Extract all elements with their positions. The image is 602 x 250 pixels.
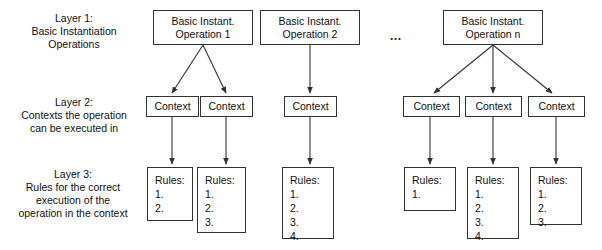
context-box-2[interactable]: Context (200, 96, 253, 117)
rules-1-item-1: 1. (155, 187, 164, 201)
edge-op1-to-ctx2 (203, 45, 226, 93)
diagram-canvas: Layer 1: Basic Instantiation Operations … (0, 0, 602, 250)
rules-5-item-1: 1. (475, 187, 484, 201)
rules-box-3[interactable]: Rules: 1. 2. 3. 4. (282, 167, 334, 239)
context-6-label: Context (538, 100, 574, 113)
rules-6-item-2: 2. (538, 201, 547, 215)
rules-3-item-4: 4. (290, 229, 299, 243)
operation-box-n[interactable]: Basic Instant. Operation n (443, 10, 543, 45)
rules-3-item-2: 2. (290, 201, 299, 215)
rules-6-title: Rules: (538, 173, 568, 187)
context-box-4[interactable]: Context (403, 96, 460, 117)
rules-5-item-4: 4. (475, 229, 484, 243)
operation-n-line-1: Basic Instant. (461, 15, 524, 28)
context-box-3[interactable]: Context (284, 96, 337, 117)
layer-2-label: Layer 2: Contexts the operation can be e… (4, 96, 144, 135)
rules-1-title: Rules: (155, 173, 185, 187)
rules-2-item-1: 1. (205, 187, 214, 201)
rules-box-1[interactable]: Rules: 1. 2. (147, 167, 193, 221)
rules-box-2[interactable]: Rules: 1. 2. 3. (197, 167, 246, 233)
rules-2-item-3: 3. (205, 215, 214, 229)
context-5-label: Context (475, 100, 511, 113)
context-4-label: Context (413, 100, 449, 113)
edge-op1-to-ctx1 (172, 45, 203, 93)
context-1-label: Context (154, 100, 190, 113)
rules-box-5[interactable]: Rules: 1. 2. 3. 4. (467, 167, 519, 239)
rules-1-item-2: 2. (155, 201, 164, 215)
context-2-label: Context (208, 100, 244, 113)
operations-ellipsis: ... (390, 30, 402, 42)
rules-5-item-3: 3. (475, 215, 484, 229)
rules-4-title: Rules: (412, 173, 442, 187)
rules-4-item-1: 1. (412, 187, 421, 201)
layer-1-label: Layer 1: Basic Instantiation Operations (4, 12, 144, 51)
rules-5-item-2: 2. (475, 201, 484, 215)
rules-3-title: Rules: (290, 173, 320, 187)
rules-6-item-1: 1. (538, 187, 547, 201)
context-box-5[interactable]: Context (465, 96, 522, 117)
context-3-label: Context (292, 100, 328, 113)
rules-3-item-3: 3. (290, 215, 299, 229)
rules-2-item-2: 2. (205, 201, 214, 215)
operation-2-line-2: Operation 2 (283, 28, 338, 41)
operation-2-line-1: Basic Instant. (278, 15, 341, 28)
edge-opn-to-ctx6 (493, 45, 552, 93)
operation-box-2[interactable]: Basic Instant. Operation 2 (260, 10, 360, 45)
operation-1-line-1: Basic Instant. (171, 15, 234, 28)
rules-5-title: Rules: (475, 173, 505, 187)
context-box-6[interactable]: Context (528, 96, 585, 117)
context-box-1[interactable]: Context (146, 96, 199, 117)
rules-2-title: Rules: (205, 173, 235, 187)
operation-1-line-2: Operation 1 (176, 28, 231, 41)
operation-n-line-2: Operation n (466, 28, 521, 41)
layer-3-label: Layer 3: Rules for the correct execution… (0, 168, 146, 220)
operation-box-1[interactable]: Basic Instant. Operation 1 (153, 10, 253, 45)
rules-6-item-3: 3. (538, 215, 547, 229)
rules-box-6[interactable]: Rules: 1. 2. 3. (530, 167, 582, 225)
edge-opn-to-ctx4 (434, 45, 493, 93)
rules-3-item-1: 1. (290, 187, 299, 201)
rules-box-4[interactable]: Rules: 1. (404, 167, 456, 211)
